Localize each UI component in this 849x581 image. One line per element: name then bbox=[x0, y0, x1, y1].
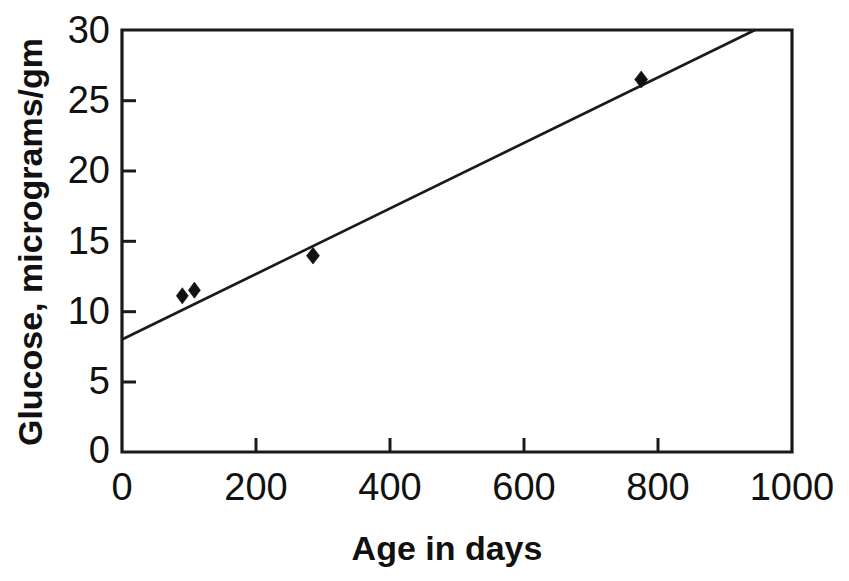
x-axis-title: Age in days bbox=[352, 529, 543, 567]
y-tick-label-15: 15 bbox=[68, 220, 110, 262]
trend-line-group bbox=[122, 30, 755, 340]
x-axis-ticks bbox=[256, 438, 658, 452]
x-tick-label-600: 600 bbox=[492, 466, 555, 508]
x-tick-labels: 0 200 400 600 800 1000 bbox=[111, 466, 834, 508]
x-tick-label-0: 0 bbox=[111, 466, 132, 508]
glucose-vs-age-scatter-chart: 0 5 10 15 20 25 30 0 200 400 600 800 100… bbox=[0, 0, 849, 581]
y-tick-labels: 0 5 10 15 20 25 30 bbox=[68, 9, 110, 471]
data-point-marker bbox=[176, 288, 188, 304]
x-tick-label-400: 400 bbox=[358, 466, 421, 508]
y-tick-label-30: 30 bbox=[68, 9, 110, 51]
y-tick-label-20: 20 bbox=[68, 149, 110, 191]
y-tick-label-0: 0 bbox=[89, 429, 110, 471]
plot-border bbox=[122, 30, 792, 452]
y-tick-label-25: 25 bbox=[68, 79, 110, 121]
linear-fit-line bbox=[122, 30, 755, 340]
x-tick-label-200: 200 bbox=[224, 466, 287, 508]
y-tick-label-5: 5 bbox=[89, 360, 110, 402]
y-axis-title: Glucose, micrograms/gm bbox=[11, 38, 49, 446]
y-tick-label-10: 10 bbox=[68, 290, 110, 332]
x-tick-label-800: 800 bbox=[626, 466, 689, 508]
data-point-marker bbox=[188, 282, 200, 298]
data-point-marker bbox=[307, 247, 320, 264]
data-point-marker bbox=[635, 71, 648, 88]
x-tick-label-1000: 1000 bbox=[750, 466, 835, 508]
plot-frame bbox=[122, 30, 792, 452]
chart-figure: 0 5 10 15 20 25 30 0 200 400 600 800 100… bbox=[0, 0, 849, 581]
data-point-markers bbox=[176, 71, 647, 304]
